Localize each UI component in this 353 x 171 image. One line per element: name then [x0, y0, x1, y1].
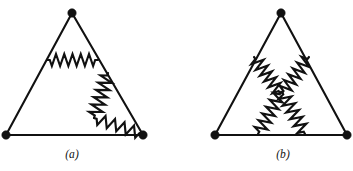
- resistor-upper-right-arm: [280, 57, 310, 93]
- triangle-outline-b: [215, 13, 347, 135]
- circuit-diagram-canvas: [0, 0, 353, 171]
- resistor-horizontal-upper: [47, 54, 98, 66]
- node-bottom-right: [139, 131, 147, 139]
- node-bottom-left: [211, 131, 219, 139]
- node-bottom-left: [2, 131, 10, 139]
- panel-b: [211, 9, 351, 139]
- resistors-a: [47, 54, 142, 138]
- resistor-diagonal-descending: [89, 73, 112, 118]
- resistor-lower-right-arm: [279, 92, 307, 134]
- panel-label-a: (a): [65, 148, 79, 160]
- resistor-upper-left-arm: [251, 57, 280, 93]
- node-bottom-right: [343, 131, 351, 139]
- nodes-a: [2, 9, 147, 139]
- triangle-outline-a: [6, 13, 143, 135]
- figure-root: (a) (b): [0, 0, 353, 171]
- nodes-b: [211, 9, 351, 139]
- panel-a: [2, 9, 147, 139]
- resistors-b: [251, 57, 309, 134]
- node-apex: [68, 9, 76, 17]
- panel-label-b: (b): [276, 148, 290, 160]
- node-apex: [277, 9, 285, 17]
